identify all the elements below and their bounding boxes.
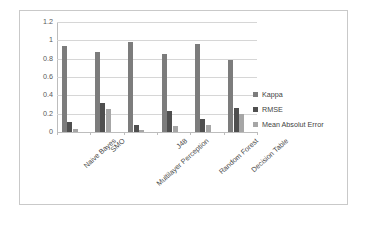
x-axis-tick bbox=[257, 132, 258, 135]
x-axis-tick bbox=[157, 132, 158, 135]
bar[interactable] bbox=[206, 125, 211, 132]
x-axis-tick bbox=[224, 132, 225, 135]
bar-group bbox=[224, 22, 257, 132]
bar[interactable] bbox=[162, 54, 167, 132]
legend-label: Kappa bbox=[262, 90, 283, 99]
bar[interactable] bbox=[95, 52, 100, 132]
x-axis-tick bbox=[124, 132, 125, 135]
bar-group bbox=[90, 22, 123, 132]
y-axis-tick-label: 0.4 bbox=[43, 91, 53, 99]
y-axis-tick-label: 0.8 bbox=[43, 55, 53, 63]
bar[interactable] bbox=[62, 46, 67, 132]
legend-item[interactable]: Kappa bbox=[253, 87, 348, 102]
y-axis-tick-labels: 1.210.80.60.40.20 bbox=[20, 11, 53, 143]
chart-legend: KappaRMSEMean Absolut Error bbox=[253, 87, 348, 132]
bar[interactable] bbox=[239, 114, 244, 132]
legend-swatch-icon bbox=[253, 122, 258, 127]
bar[interactable] bbox=[134, 125, 139, 132]
x-axis-tick bbox=[90, 132, 91, 135]
legend-item[interactable]: Mean Absolut Error bbox=[253, 117, 348, 132]
bar[interactable] bbox=[173, 126, 178, 132]
bar[interactable] bbox=[73, 129, 78, 132]
bar[interactable] bbox=[67, 122, 72, 132]
bar[interactable] bbox=[106, 109, 111, 132]
legend-label: RMSE bbox=[262, 105, 283, 114]
x-axis-category-label: Naive Bayes bbox=[82, 137, 117, 170]
y-axis-tick-label: 1.2 bbox=[43, 18, 53, 26]
legend-item[interactable]: RMSE bbox=[253, 102, 348, 117]
bar-group bbox=[124, 22, 157, 132]
bar[interactable] bbox=[228, 60, 233, 132]
x-axis-tick bbox=[57, 132, 58, 135]
legend-swatch-icon bbox=[253, 107, 258, 112]
bar-group bbox=[157, 22, 190, 132]
bar[interactable] bbox=[195, 44, 200, 132]
bar-group bbox=[57, 22, 90, 132]
bar-group bbox=[190, 22, 223, 132]
legend-swatch-icon bbox=[253, 92, 258, 97]
legend-label: Mean Absolut Error bbox=[262, 120, 324, 129]
plot-area bbox=[57, 22, 257, 132]
bar[interactable] bbox=[167, 111, 172, 132]
y-axis-tick-label: 0.2 bbox=[43, 110, 53, 118]
y-axis-tick-label: 0 bbox=[49, 128, 53, 136]
bar[interactable] bbox=[128, 42, 133, 132]
chart-frame: 1.210.80.60.40.20 Naive BayesSMOMultilay… bbox=[19, 10, 348, 205]
x-axis-category-label: J48 bbox=[175, 137, 189, 151]
y-axis-tick-label: 1 bbox=[49, 36, 53, 44]
bar[interactable] bbox=[200, 119, 205, 132]
y-axis-tick-label: 0.6 bbox=[43, 73, 53, 81]
bar[interactable] bbox=[139, 130, 144, 132]
x-axis-tick bbox=[190, 132, 191, 135]
bar[interactable] bbox=[234, 108, 239, 132]
bar[interactable] bbox=[100, 103, 105, 132]
